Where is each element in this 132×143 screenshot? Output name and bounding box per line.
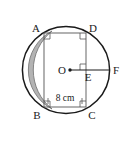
label-f: F <box>113 64 119 76</box>
label-a: A <box>32 22 40 34</box>
label-e: E <box>85 71 92 83</box>
label-d: D <box>89 22 97 34</box>
label-o: O <box>58 64 66 76</box>
geometry-figure: A D B C O E F 8 cm <box>0 0 132 143</box>
label-b: B <box>33 109 40 121</box>
dimension-label: 8 cm <box>56 93 75 103</box>
center-point-dot <box>68 68 71 71</box>
geometry-canvas: A D B C O E F 8 cm <box>0 0 132 143</box>
label-c: C <box>88 109 95 121</box>
